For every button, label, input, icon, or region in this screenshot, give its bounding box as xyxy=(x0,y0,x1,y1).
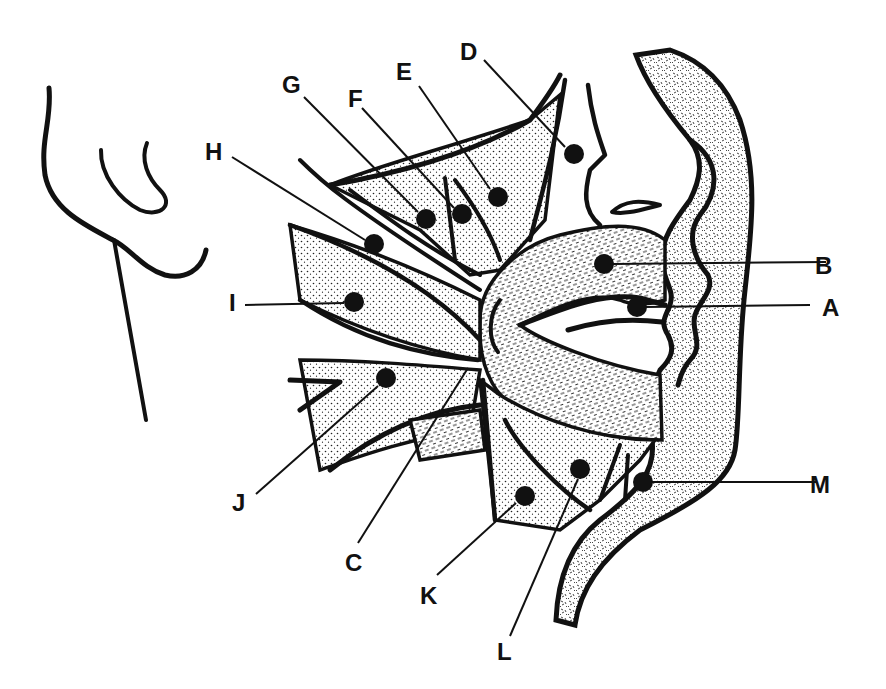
marker-dot-a xyxy=(627,297,647,317)
ear-outline xyxy=(44,88,206,420)
label-k: K xyxy=(420,582,438,609)
label-c: C xyxy=(345,549,362,576)
marker-dot-m xyxy=(633,472,653,492)
label-j: J xyxy=(232,489,245,516)
label-i: I xyxy=(229,289,236,316)
marker-dot-f xyxy=(452,204,472,224)
facial-muscles-diagram: ABCDEFGHIJKLM xyxy=(0,0,886,689)
label-g: G xyxy=(282,71,301,98)
label-m: M xyxy=(810,471,830,498)
label-e: E xyxy=(396,58,412,85)
label-l: L xyxy=(497,638,512,665)
skin-profile xyxy=(556,50,752,625)
marker-dot-i xyxy=(344,292,364,312)
label-f: F xyxy=(348,85,363,112)
label-a: A xyxy=(822,294,839,321)
marker-dot-h xyxy=(364,234,384,254)
marker-dot-e xyxy=(488,187,508,207)
label-h: H xyxy=(205,138,222,165)
marker-dot-g xyxy=(416,209,436,229)
leader-line-k xyxy=(437,503,516,575)
label-d: D xyxy=(460,38,477,65)
marker-dot-l xyxy=(570,459,590,479)
marker-dot-b xyxy=(594,254,614,274)
label-b: B xyxy=(815,252,832,279)
marker-dot-d xyxy=(564,144,584,164)
marker-dot-k xyxy=(515,486,535,506)
marker-dot-j xyxy=(376,368,396,388)
